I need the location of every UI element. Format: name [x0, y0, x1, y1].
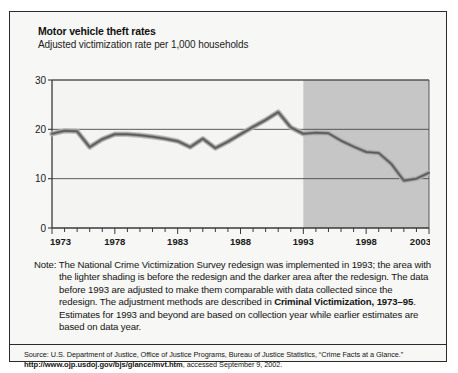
- note-emphasis: Criminal Victimization, 1973–95: [274, 296, 413, 307]
- note-source-divider: [10, 344, 446, 345]
- figure-panel: Motor vehicle theft rates Adjusted victi…: [9, 11, 447, 362]
- x-tick-label-1973: 1973: [50, 236, 71, 247]
- figure-note: Note: The National Crime Victimization S…: [34, 259, 432, 333]
- source-prefix: Source: U.S. Department of Justice, Offi…: [24, 350, 403, 359]
- x-tick-label-1988: 1988: [230, 236, 251, 247]
- figure-subtitle: Adjusted victimization rate per 1,000 ho…: [38, 38, 418, 52]
- y-tick-label-10: 10: [35, 173, 47, 184]
- page-title: Motor vehicle theft rates: [38, 25, 418, 38]
- x-tick-label-1978: 1978: [104, 236, 125, 247]
- x-tick-label-1998: 1998: [356, 236, 377, 247]
- y-tick-label-30: 30: [35, 75, 47, 86]
- x-tick-label-1993: 1993: [293, 236, 314, 247]
- x-tick-label-2003: 2003: [410, 236, 430, 247]
- figure-header: Motor vehicle theft rates Adjusted victi…: [38, 25, 418, 52]
- x-tick-label-1983: 1983: [167, 236, 188, 247]
- line-chart: 01020301973197819831988199319982003: [30, 72, 430, 254]
- y-tick-label-20: 20: [35, 124, 47, 135]
- note-label: Note:: [34, 259, 56, 270]
- source-url[interactable]: http://www.ojp.usdoj.gov/bjs/glance/mvt.…: [24, 360, 183, 369]
- chart-area: 01020301973197819831988199319982003: [30, 72, 430, 254]
- figure-source: Source: U.S. Department of Justice, Offi…: [24, 350, 438, 371]
- source-suffix: , accessed September 9, 2002.: [183, 360, 283, 369]
- y-tick-label-0: 0: [40, 223, 46, 234]
